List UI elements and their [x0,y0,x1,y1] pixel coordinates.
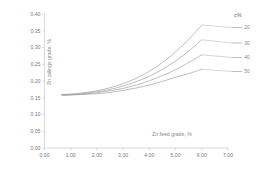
x-axis-title: Zn feed grade, % [152,131,192,137]
y-tick-label: 0.20 [30,78,40,84]
x-tick-label: 6.00 [197,152,207,158]
legend-label: 50 [244,68,250,74]
x-tick-label: 3.00 [118,152,128,158]
y-tick-label: 0.35 [30,28,40,34]
y-tick-label: 0.00 [30,145,40,151]
legend-label: 30 [244,40,250,46]
legend-title: c% [234,12,242,18]
y-tick-label: 0.10 [30,111,40,117]
x-tick-label: 2.00 [92,152,102,158]
chart-container: 0.000.050.100.150.200.250.300.350.40 0.0… [0,0,264,177]
y-axis-title: Zn tailings grade, % [46,39,52,85]
x-tick-label: 4.00 [144,152,154,158]
y-tick-label: 0.05 [30,128,40,134]
line-chart: 0.000.050.100.150.200.250.300.350.40 0.0… [0,0,264,177]
y-tick-label: 0.25 [30,61,40,67]
x-tick-label: 1.00 [66,152,76,158]
x-tick-label: 5.00 [171,152,181,158]
y-tick-label: 0.30 [30,44,40,50]
x-tick-label: 7.00 [223,152,233,158]
y-tick-label: 0.40 [30,11,40,17]
x-tick-label: 0.00 [39,152,49,158]
legend-label: 20 [244,24,250,30]
y-tick-label: 0.15 [30,95,40,101]
legend-label: 40 [244,54,250,60]
